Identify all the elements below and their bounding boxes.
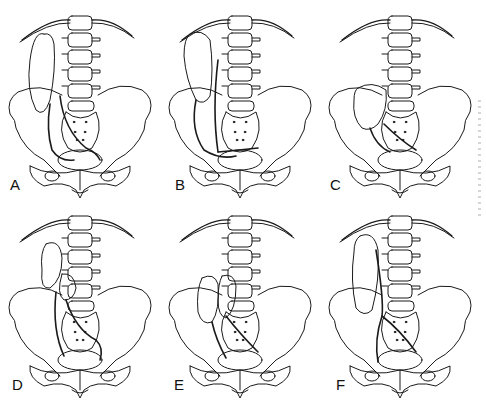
panel-label: B xyxy=(175,176,185,193)
pelvis-spine-illustration xyxy=(160,200,322,400)
bladder xyxy=(378,350,422,370)
panel-label: E xyxy=(174,376,184,393)
ureter xyxy=(55,292,64,356)
ureter xyxy=(376,250,382,362)
anatomy-panel-c: C xyxy=(320,0,482,200)
lumbar-spine xyxy=(62,16,100,111)
pelvis-spine-illustration xyxy=(0,200,162,400)
panel-label: F xyxy=(336,376,345,393)
kidney-left xyxy=(198,276,219,323)
bladder xyxy=(58,350,102,370)
kidney-right xyxy=(218,275,236,318)
iliac-wing-left xyxy=(9,88,62,176)
kidney xyxy=(354,84,387,129)
pelvis-spine-illustration xyxy=(320,200,482,400)
anatomy-panel-a: A xyxy=(0,0,162,200)
ureter xyxy=(370,128,390,152)
sacrum xyxy=(381,112,419,152)
bladder xyxy=(218,350,262,370)
sacrum xyxy=(221,112,259,152)
panel-label: A xyxy=(10,176,20,193)
iliac-wing-right xyxy=(98,86,151,176)
lumbar-spine xyxy=(222,216,260,311)
bladder xyxy=(378,150,422,170)
kidney xyxy=(184,32,212,102)
iliac-wing-right xyxy=(98,286,151,376)
panel-label: C xyxy=(330,176,341,193)
lumbar-spine xyxy=(382,16,420,111)
panel-label: D xyxy=(12,376,23,393)
iliac-wing-right xyxy=(258,286,311,376)
anatomy-panel-e: E xyxy=(160,200,322,400)
bladder xyxy=(218,150,262,170)
anatomy-panel-d: D xyxy=(0,200,162,400)
sacrum xyxy=(61,312,99,352)
kidney xyxy=(352,235,378,314)
iliac-wing-left xyxy=(9,288,62,376)
kidney-upper xyxy=(42,243,63,289)
iliac-wing-left xyxy=(329,88,382,176)
sacrum xyxy=(61,112,99,152)
pelvis-spine-illustration xyxy=(320,0,482,200)
lumbar-spine xyxy=(62,216,100,311)
anatomy-panel-b: B xyxy=(160,0,322,200)
anatomy-panel-f: F xyxy=(320,200,482,400)
kidney xyxy=(29,34,55,113)
iliac-wing-right xyxy=(258,86,311,176)
iliac-wing-right xyxy=(418,286,471,376)
lumbar-spine xyxy=(382,216,420,311)
lumbar-spine xyxy=(222,16,260,111)
edge-artifact xyxy=(478,100,481,220)
pelvis-spine-illustration xyxy=(0,0,162,200)
pelvis-spine-illustration xyxy=(160,0,322,200)
iliac-wing-right xyxy=(418,86,471,176)
